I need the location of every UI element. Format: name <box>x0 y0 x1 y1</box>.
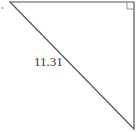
triangle-shape <box>10 2 134 129</box>
right-angle-marker-icon <box>127 2 134 9</box>
hypotenuse-label: 11.31 <box>34 54 63 69</box>
stray-dot <box>2 7 4 9</box>
right-triangle-diagram: 11.31 <box>0 0 138 132</box>
